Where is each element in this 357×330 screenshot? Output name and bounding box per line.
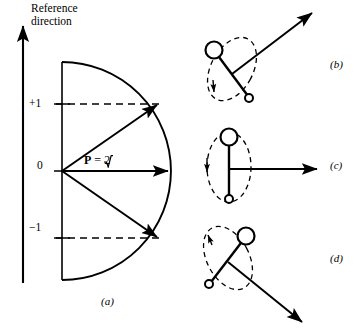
rotation-arrow-b [213,80,214,92]
emission-arrow-b [232,13,312,74]
tick-label-zero: 0 [37,159,43,172]
equals-sign: = [94,153,101,167]
panel-label-c: (c) [330,159,342,172]
panel-b-group [197,13,312,109]
reference-direction-line1: Reference [31,2,78,14]
tick-label-minus-one: −1 [29,221,41,234]
dipole-small-sphere-c [225,195,233,203]
panel-d-group [193,218,302,322]
radical-glyph [104,154,113,168]
dipole-large-sphere-d [238,228,255,245]
figure-canvas [0,0,357,330]
dipole-rod-b [216,53,248,96]
panel-label-a: (a) [101,295,114,308]
panel-label-b: (b) [330,58,343,71]
panel-label-d: (d) [330,252,343,265]
dipole-small-sphere-b [245,94,253,102]
rotation-arrow-d [208,235,212,245]
reference-direction-line2: direction [31,15,72,27]
vector-symbol-p: P [84,153,91,167]
reference-direction-label: Reference direction [31,2,78,28]
vector-magnitude-label: P = 2 [84,154,110,168]
panel-c-group [207,129,317,204]
dipole-rod-d [211,239,244,282]
dipole-small-sphere-d [205,280,213,288]
dipole-large-sphere-c [221,129,238,146]
square-root-symbol: 2 [104,154,110,168]
polarization-figure: Reference direction +1 0 −1 P = 2 (a) (b… [0,0,357,330]
emission-arrow-d [228,262,302,322]
tick-label-plus-one: +1 [29,97,41,110]
dipole-large-sphere-b [206,42,223,59]
vector-arrow-minus-45 [62,171,157,237]
orbit-ellipse-b [197,29,266,109]
